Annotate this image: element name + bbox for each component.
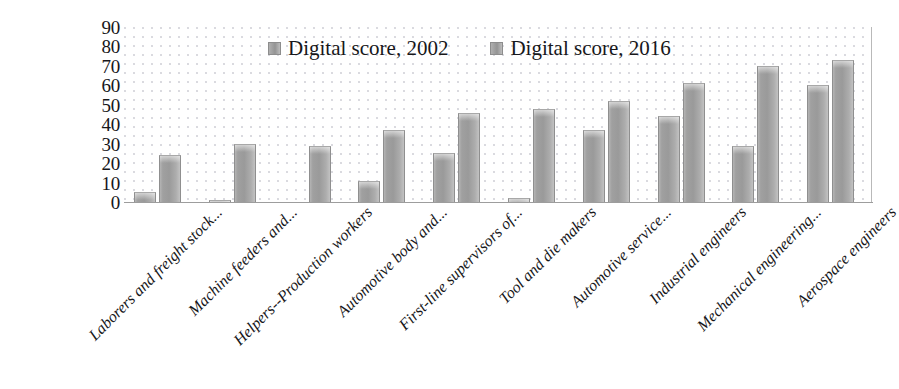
bar — [134, 192, 156, 202]
bar-group — [134, 27, 199, 202]
x-axis-baseline — [124, 202, 873, 203]
bar — [159, 155, 181, 202]
bar — [583, 130, 605, 202]
y-tick-label: 90 — [88, 18, 120, 37]
y-tick-label: 30 — [88, 135, 120, 154]
bar-group — [209, 27, 274, 202]
x-tick-label: Laborers and freight stock... — [0, 204, 226, 389]
bar — [658, 116, 680, 202]
chart-legend: Digital score, 2002Digital score, 2016 — [268, 38, 671, 59]
x-tick-label: Aerospace engineers — [463, 204, 899, 389]
x-tick-label: Mechanical engineering... — [388, 204, 824, 389]
x-tick-label: Automotive body and... — [14, 204, 450, 389]
x-axis: Laborers and freight stock...Machine fee… — [0, 204, 899, 389]
bar — [608, 101, 630, 202]
y-tick-label: 20 — [88, 154, 120, 173]
bar — [383, 130, 405, 202]
y-tick-label: 80 — [88, 37, 120, 56]
bar — [358, 181, 380, 202]
bar — [807, 85, 829, 202]
bar — [533, 109, 555, 202]
bar-group — [807, 27, 872, 202]
bar — [309, 146, 331, 202]
bar — [757, 66, 779, 202]
bar — [732, 146, 754, 202]
bar — [458, 113, 480, 202]
y-axis: 9080706050403020100 — [88, 18, 120, 210]
y-tick-label: 10 — [88, 174, 120, 193]
legend-item[interactable]: Digital score, 2016 — [490, 38, 670, 59]
x-tick-label: Tool and die makers — [164, 204, 600, 389]
bar — [234, 144, 256, 202]
x-tick-label: First-line supervisors of... — [89, 204, 525, 389]
y-tick-label: 40 — [88, 115, 120, 134]
legend-item[interactable]: Digital score, 2002 — [268, 38, 448, 59]
y-tick-label: 50 — [88, 96, 120, 115]
legend-label: Digital score, 2002 — [288, 38, 448, 59]
bar-chart: 9080706050403020100 Digital score, 2002D… — [0, 0, 899, 389]
legend-swatch-icon — [490, 42, 503, 55]
y-tick-label: 70 — [88, 57, 120, 76]
bar — [683, 83, 705, 202]
legend-swatch-icon — [268, 42, 281, 55]
y-tick-label: 60 — [88, 76, 120, 95]
bar — [832, 60, 854, 202]
x-tick-label: Machine feeders and... — [0, 204, 300, 389]
legend-label: Digital score, 2016 — [510, 38, 670, 59]
bar — [433, 153, 455, 202]
bar-group — [732, 27, 797, 202]
